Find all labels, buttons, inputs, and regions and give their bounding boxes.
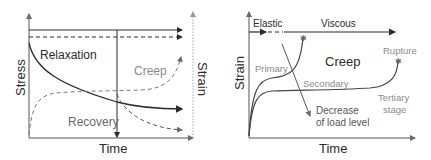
left-panel: Stress Time Strain Relaxation Creep Reco… [13,12,210,156]
time-axis-label: Time [99,141,127,156]
recovery-label: Recovery [68,115,119,129]
rupture-star-high: ✱ [300,34,307,43]
creep-label: Creep [325,54,360,69]
tertiary-label-line2: stage [383,104,406,115]
decrease-label-line2: of load level [316,117,369,128]
time-axis-label: Time [319,141,347,156]
primary-label: Primary [255,63,288,74]
tertiary-label-line1: Tertiary [378,92,409,103]
rupture-star-low: ✱ [395,57,402,66]
right-panel: ✱ ✱ Strain Time Elastic Viscous Creep Pr… [232,12,417,156]
high-load-creep-curve [249,37,303,136]
decrease-label-line1: Decrease [316,105,359,116]
strain-axis-label: Strain [195,62,210,96]
rupture-label: Rupture [383,45,417,56]
elastic-label: Elastic [253,18,282,29]
relaxation-label: Relaxation [40,48,97,62]
recovery-curve [117,94,182,130]
strain-axis-label: Strain [232,56,247,90]
creep-label: Creep [134,64,167,78]
viscous-label: Viscous [321,18,356,29]
secondary-label: Secondary [303,78,349,89]
stress-axis-label: Stress [13,59,28,96]
creep-relaxation-diagram: Stress Time Strain Relaxation Creep Reco… [0,0,431,160]
